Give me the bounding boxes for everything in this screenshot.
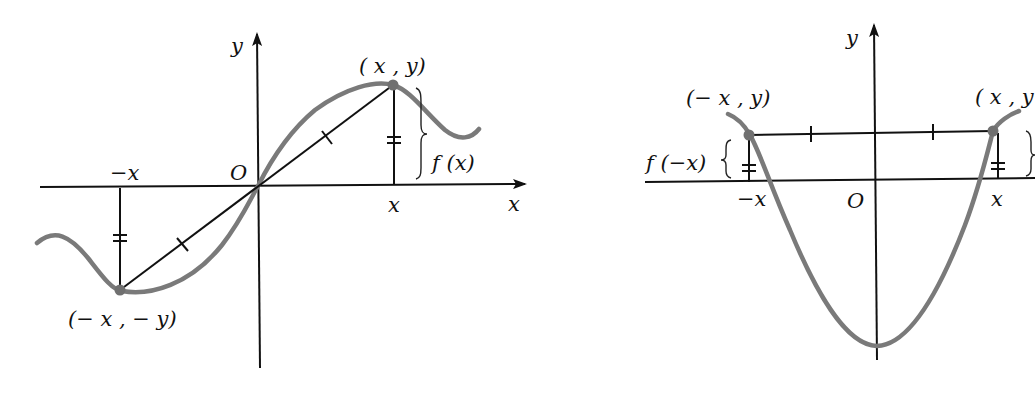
point-x-y	[988, 126, 999, 137]
x-axis-label: x	[508, 192, 520, 216]
point-x-y-label: ( x , y	[975, 85, 1035, 109]
point-x-y-label: ( x , y)	[359, 54, 426, 78]
y-axis-label: y	[845, 26, 859, 50]
origin-label: O	[230, 161, 247, 185]
f-of-negx-label: f (−x)	[644, 151, 706, 175]
point-negx-y	[744, 130, 755, 141]
f-of-x-label: f (x)	[430, 151, 475, 175]
x-axis	[645, 178, 1035, 182]
symmetry-chord	[749, 131, 993, 135]
point-negx-y-label: (− x , y)	[686, 86, 770, 110]
point-negx-negy-label: (− x , − y)	[68, 307, 177, 331]
origin-label: O	[847, 189, 864, 213]
diagram-canvas: y x O ( x , y) (− x , − y) f (x) x −x	[0, 0, 1035, 395]
symmetry-chord	[120, 85, 393, 290]
even-function-curve	[728, 111, 1019, 346]
odd-function-figure: y x O ( x , y) (− x , − y) f (x) x −x	[37, 34, 525, 368]
even-function-figure: y O (− x , y) ( x , y f (−x) −x x	[644, 25, 1035, 360]
point-x-y	[388, 80, 399, 91]
y-axis-label: y	[230, 34, 244, 58]
x-tick-label: x	[991, 187, 1003, 211]
y-axis	[874, 25, 877, 360]
y-axis	[257, 34, 260, 368]
point-negx-negy	[115, 285, 126, 296]
x-tick-label: x	[388, 193, 400, 217]
brace-icon	[721, 140, 731, 178]
neg-x-tick-label: −x	[110, 161, 140, 185]
brace-icon	[1026, 131, 1035, 176]
neg-x-tick-label: −x	[737, 187, 767, 211]
